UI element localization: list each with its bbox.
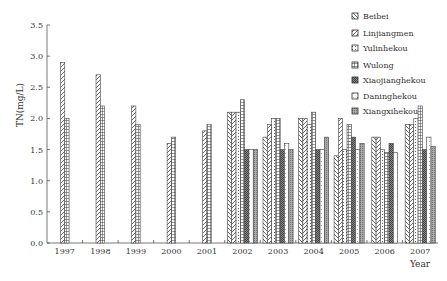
bar-group-2007 (405, 106, 435, 243)
bar-linjiangmen (409, 125, 413, 243)
y-axis: 0.00.51.01.52.02.53.03.5 (30, 21, 50, 248)
bar-yulinhekou (307, 125, 311, 243)
y-tick-label: 3.5 (30, 21, 43, 30)
legend-item-daninghekou: Daninghekou (352, 92, 417, 101)
x-tick-label: 2003 (268, 247, 288, 256)
bar-wulong (385, 153, 389, 243)
legend-item-xiangxihekou: Xiangxihekou (352, 107, 418, 116)
bar-linjiangmen (303, 118, 307, 243)
bar-linjiangmen (338, 118, 342, 243)
bar-wulong (240, 100, 244, 243)
legend-swatch-icon (352, 62, 358, 68)
bar-wulong (347, 125, 351, 243)
bar-xiaojianghekou (351, 137, 355, 243)
legend-label: Linjiangmen (363, 29, 414, 38)
legend-item-beibei: Beibei (352, 12, 389, 21)
x-tick-label: 1997 (55, 247, 75, 256)
x-tick-label: 2004 (303, 247, 323, 256)
bar-group-2002 (227, 100, 257, 243)
legend-label: Yulinhekou (362, 44, 408, 53)
bar-linjiangmen (376, 137, 380, 243)
y-tick-label: 3.0 (30, 52, 43, 61)
bar-xiangxihekou (360, 143, 364, 243)
bar-daninghekou (393, 153, 397, 243)
bar-linjiangmen (132, 106, 136, 243)
bar-group-2000 (167, 137, 176, 243)
bar-wulong (136, 125, 140, 243)
x-tick-label: 2000 (161, 247, 181, 256)
bar-wulong (171, 137, 175, 243)
x-tick-label: 2001 (197, 247, 217, 256)
bar-group-1997 (60, 62, 69, 243)
y-tick-label: 0.0 (30, 239, 43, 248)
bar-xiaojianghekou (245, 150, 249, 243)
legend-swatch-icon (352, 45, 358, 51)
bar-yulinhekou (272, 118, 276, 243)
legend-swatch-icon (352, 93, 358, 99)
bar-xiaojianghekou (280, 150, 284, 243)
legend-label: Daninghekou (363, 92, 417, 101)
y-tick-label: 0.5 (30, 208, 43, 217)
y-axis-title: TN(mg/L) (15, 83, 25, 127)
legend-item-wulong: Wulong (352, 61, 394, 70)
bar-daninghekou (320, 150, 324, 243)
bar-beibei (263, 137, 267, 243)
bar-yulinhekou (380, 150, 384, 243)
y-tick-label: 1.5 (30, 146, 43, 155)
x-tick-label: 2006 (375, 247, 395, 256)
bar-xiaojianghekou (422, 150, 426, 243)
legend-swatch-icon (352, 30, 358, 36)
x-tick-label: 2005 (339, 247, 359, 256)
bar-wulong (207, 125, 211, 243)
bar-groups (60, 62, 435, 243)
bar-linjiangmen (60, 62, 64, 243)
tn-bar-chart: 0.00.51.01.52.02.53.03.5 199719981999200… (0, 0, 447, 281)
bar-daninghekou (356, 150, 360, 243)
bar-yulinhekou (414, 118, 418, 243)
bar-linjiangmen (232, 112, 236, 243)
bar-group-2006 (372, 137, 398, 243)
legend-swatch-icon (352, 13, 358, 19)
bar-daninghekou (427, 137, 431, 243)
legend-label: Xiangxihekou (363, 107, 418, 116)
y-tick-label: 1.0 (30, 177, 43, 186)
x-tick-label: 2002 (232, 247, 252, 256)
bar-beibei (227, 112, 231, 243)
bar-group-2001 (203, 125, 212, 243)
bar-group-1999 (132, 106, 141, 243)
x-tick-label: 1999 (126, 247, 146, 256)
bar-beibei (334, 156, 338, 243)
bar-xiangxihekou (253, 150, 257, 243)
bar-xiaojianghekou (316, 150, 320, 243)
bar-linjiangmen (203, 131, 207, 243)
bar-wulong (276, 118, 280, 243)
x-axis-title: Year (409, 259, 431, 269)
y-tick-label: 2.5 (30, 83, 43, 92)
legend: BeibeiLinjiangmenYulinhekouWulongXiaojia… (352, 12, 426, 116)
legend-swatch-icon (352, 77, 358, 83)
bar-xiangxihekou (431, 146, 435, 243)
legend-item-yulinhekou: Yulinhekou (352, 44, 408, 53)
bar-group-2003 (263, 118, 293, 243)
bar-wulong (418, 106, 422, 243)
bar-wulong (65, 118, 69, 243)
bar-group-2004 (299, 112, 329, 243)
legend-label: Xiaojianghekou (363, 76, 426, 85)
bar-xiaojianghekou (389, 143, 393, 243)
legend-label: Wulong (363, 61, 394, 70)
bar-yulinhekou (343, 150, 347, 243)
bar-beibei (299, 118, 303, 243)
y-tick-label: 2.0 (30, 114, 43, 123)
bar-yulinhekou (236, 112, 240, 243)
bar-wulong (311, 112, 315, 243)
bar-daninghekou (284, 143, 288, 243)
x-tick-label: 2007 (410, 247, 430, 256)
bar-xiangxihekou (324, 137, 328, 243)
bar-linjiangmen (167, 143, 171, 243)
bar-wulong (100, 106, 104, 243)
bar-beibei (372, 137, 376, 243)
x-tick-label: 1998 (90, 247, 110, 256)
bar-linjiangmen (267, 125, 271, 243)
legend-item-xiaojianghekou: Xiaojianghekou (352, 76, 426, 85)
bar-group-1998 (96, 75, 105, 243)
